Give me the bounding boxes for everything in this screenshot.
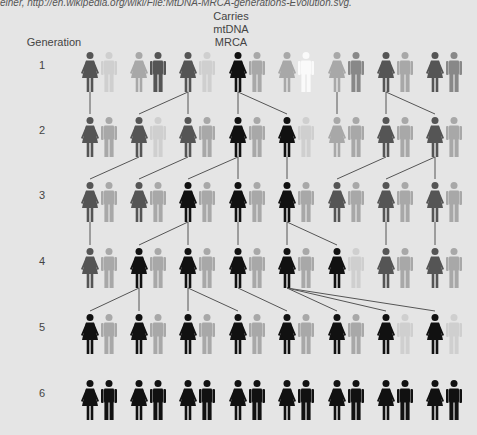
couple	[81, 117, 117, 157]
male-icon	[249, 248, 265, 288]
mtdna-mrca-diagram: einer, http://en.wikipedia.org/wiki/File…	[0, 0, 477, 435]
lineage-line	[337, 157, 386, 179]
lineage-line	[90, 288, 139, 311]
female-icon	[426, 52, 444, 92]
female-icon	[426, 248, 444, 288]
male-icon	[101, 314, 117, 354]
female-icon	[328, 380, 346, 420]
lineage-line	[139, 157, 188, 179]
couple	[179, 117, 215, 157]
couple	[81, 248, 117, 288]
lineage-line	[386, 92, 435, 114]
male-icon	[348, 248, 364, 288]
couple	[278, 248, 314, 288]
female-icon	[377, 117, 395, 157]
couple	[426, 314, 462, 354]
male-icon	[298, 314, 314, 354]
generation-row-5	[81, 314, 462, 354]
couple	[130, 248, 166, 288]
male-icon	[249, 380, 265, 420]
female-icon	[426, 182, 444, 222]
couple	[278, 117, 314, 157]
couple	[229, 248, 265, 288]
female-icon	[278, 314, 296, 354]
couple	[179, 182, 215, 222]
female-icon	[328, 248, 346, 288]
couple	[377, 52, 413, 92]
couple	[377, 314, 413, 354]
couple	[278, 52, 314, 92]
lineage-line	[238, 92, 287, 114]
male-icon	[150, 182, 166, 222]
female-icon	[377, 380, 395, 420]
male-icon	[348, 182, 364, 222]
male-icon	[150, 314, 166, 354]
female-icon	[130, 52, 148, 92]
male-icon	[298, 380, 314, 420]
couple	[229, 380, 265, 420]
couple	[130, 117, 166, 157]
female-icon	[229, 117, 247, 157]
couple	[81, 380, 117, 420]
female-icon	[328, 52, 346, 92]
couple	[179, 314, 215, 354]
female-icon	[179, 52, 197, 92]
lineage-line	[139, 222, 188, 245]
couple	[377, 182, 413, 222]
male-icon	[150, 380, 166, 420]
male-icon	[397, 380, 413, 420]
female-icon	[81, 52, 99, 92]
male-icon	[446, 314, 462, 354]
couple	[377, 248, 413, 288]
female-icon	[179, 314, 197, 354]
female-icon	[426, 117, 444, 157]
couple	[130, 380, 166, 420]
couple	[81, 314, 117, 354]
male-icon	[397, 314, 413, 354]
male-icon	[150, 117, 166, 157]
male-icon	[397, 52, 413, 92]
female-icon	[130, 380, 148, 420]
couple	[130, 52, 166, 92]
lineage-line	[90, 157, 139, 179]
couple	[81, 52, 117, 92]
female-icon	[130, 314, 148, 354]
female-icon	[229, 52, 247, 92]
couple	[328, 182, 364, 222]
couple	[328, 248, 364, 288]
male-icon	[101, 117, 117, 157]
female-icon	[278, 380, 296, 420]
female-icon	[81, 314, 99, 354]
couple	[426, 117, 462, 157]
generation-row-2	[81, 117, 462, 157]
male-icon	[150, 52, 166, 92]
female-icon	[377, 52, 395, 92]
female-icon	[81, 117, 99, 157]
female-icon	[229, 314, 247, 354]
female-icon	[229, 380, 247, 420]
couple	[328, 117, 364, 157]
male-icon	[446, 52, 462, 92]
female-icon	[377, 248, 395, 288]
female-icon	[179, 380, 197, 420]
male-icon	[397, 182, 413, 222]
male-icon	[101, 52, 117, 92]
couple	[328, 52, 364, 92]
male-icon	[199, 314, 215, 354]
male-icon	[348, 380, 364, 420]
couple	[179, 380, 215, 420]
female-icon	[81, 182, 99, 222]
male-icon	[101, 380, 117, 420]
couple	[328, 380, 364, 420]
lineage-line	[188, 288, 238, 311]
couple	[81, 182, 117, 222]
male-icon	[249, 182, 265, 222]
couple	[229, 52, 265, 92]
generation-row-4	[81, 248, 462, 288]
female-icon	[130, 182, 148, 222]
female-icon	[377, 182, 395, 222]
female-icon	[278, 52, 296, 92]
couple	[377, 117, 413, 157]
male-icon	[298, 248, 314, 288]
male-icon	[199, 248, 215, 288]
